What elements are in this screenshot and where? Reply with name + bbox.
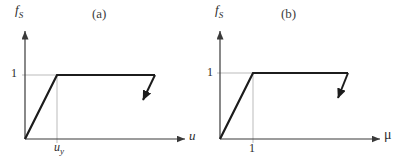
panel-b: f˜S (b) 1 1 μ [204,0,408,166]
y-axis-label-a: f˜S [15,3,23,20]
plot-canvas-a [0,0,204,166]
x-axis-label-b: μ [384,128,392,142]
panel-tag-b: (b) [281,7,296,20]
panel-tag-a: (a) [92,7,106,20]
tilde-accent: ˜ [18,0,22,8]
elastoplastic-force-figure: f˜S (a) 1 uy u f˜S (b) 1 1 μ [0,0,408,166]
y-tick-label-a: 1 [11,67,17,79]
x-tick-label-a: uy [54,141,64,156]
x-tick-label-b: 1 [249,142,255,154]
panel-a: f˜S (a) 1 uy u [0,0,204,166]
y-axis-subscript: S [19,10,24,20]
y-tick-label-b: 1 [207,66,213,78]
tilde-accent: ˜ [218,0,222,8]
plot-canvas-b [204,0,408,166]
x-axis-label-a: u [189,129,196,142]
y-axis-subscript: S [219,10,224,20]
y-axis-label-b: f˜S [215,3,223,20]
x-tick-subscript: y [60,146,64,156]
x-tick-base: 1 [249,141,255,155]
